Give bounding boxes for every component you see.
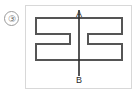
figure-frame: A B [25,5,132,89]
figure-stage: A B [26,6,131,88]
axis-label-b: B [73,76,85,85]
axis-label-a: A [73,10,85,19]
item-number-badge: ③ [4,11,19,26]
figure-panel: ③ A B [0,0,137,95]
